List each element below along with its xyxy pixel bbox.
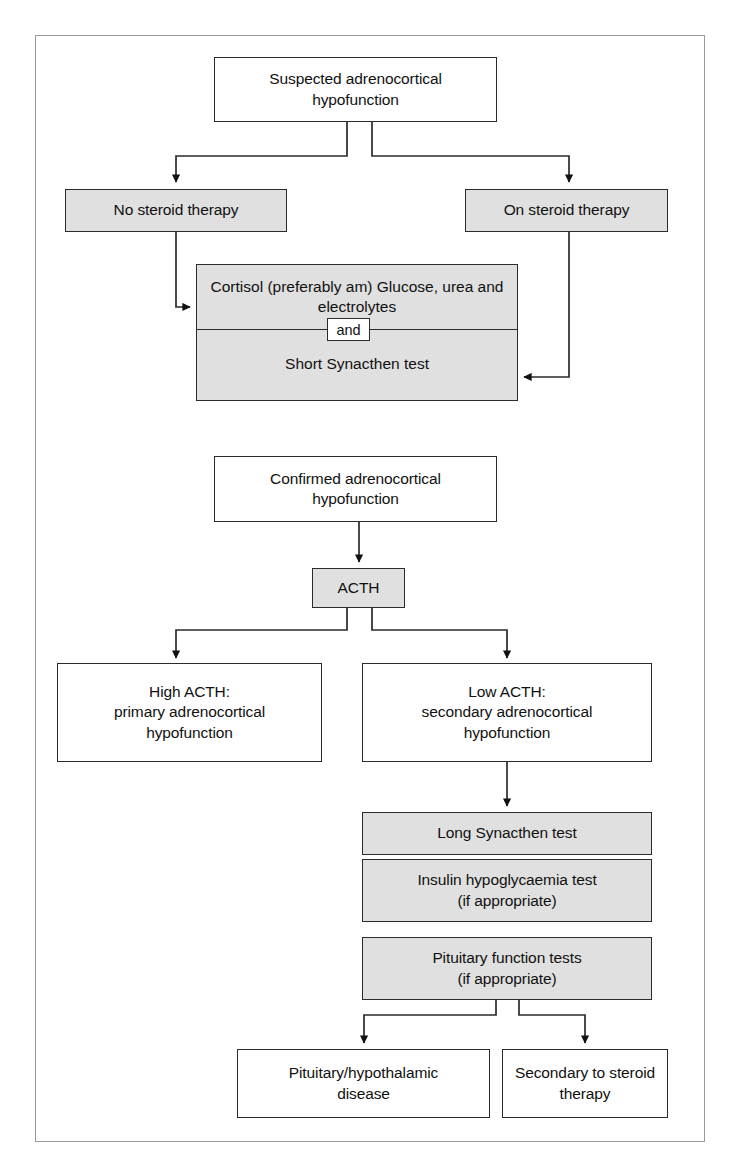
node-secondary-to-steroid-therapy[interactable]: Secondary to steroid therapy bbox=[502, 1049, 668, 1118]
node-label: Secondary to steroid therapy bbox=[515, 1063, 655, 1104]
node-label: Low ACTH: secondary adrenocortical hypof… bbox=[422, 682, 593, 743]
flowchart-figure: Suspected adrenocortical hypofunction No… bbox=[0, 0, 735, 1168]
connector-and-label: and bbox=[327, 318, 370, 341]
panel-segment-short-synacthen: Short Synacthen test bbox=[197, 331, 517, 398]
node-on-steroid-therapy[interactable]: On steroid therapy bbox=[465, 189, 668, 232]
node-high-acth-primary[interactable]: High ACTH: primary adrenocortical hypofu… bbox=[57, 663, 322, 762]
node-label: On steroid therapy bbox=[504, 200, 630, 220]
node-pituitary-hypothalamic-disease[interactable]: Pituitary/hypothalamic disease bbox=[237, 1049, 490, 1118]
and-text: and bbox=[336, 322, 360, 338]
node-long-synacthen-test[interactable]: Long Synacthen test bbox=[362, 812, 652, 855]
node-label: Confirmed adrenocortical hypofunction bbox=[270, 469, 441, 510]
node-label: No steroid therapy bbox=[114, 200, 239, 220]
node-confirmed-adrenocortical-hypofunction[interactable]: Confirmed adrenocortical hypofunction bbox=[214, 456, 497, 522]
node-label: Short Synacthen test bbox=[285, 354, 429, 374]
node-label: High ACTH: primary adrenocortical hypofu… bbox=[114, 682, 265, 743]
node-low-acth-secondary[interactable]: Low ACTH: secondary adrenocortical hypof… bbox=[362, 663, 652, 762]
node-label: Cortisol (preferably am) Glucose, urea a… bbox=[197, 277, 517, 318]
node-suspected-adrenocortical-hypofunction[interactable]: Suspected adrenocortical hypofunction bbox=[214, 57, 497, 122]
node-acth[interactable]: ACTH bbox=[312, 568, 405, 608]
node-no-steroid-therapy[interactable]: No steroid therapy bbox=[65, 189, 287, 232]
node-label: Pituitary/hypothalamic disease bbox=[289, 1063, 438, 1104]
node-label: Insulin hypoglycaemia test (if appropria… bbox=[417, 870, 596, 911]
node-insulin-hypoglycaemia-test[interactable]: Insulin hypoglycaemia test (if appropria… bbox=[362, 859, 652, 922]
node-label: ACTH bbox=[338, 578, 380, 598]
node-label: Suspected adrenocortical hypofunction bbox=[269, 69, 442, 110]
node-label: Pituitary function tests (if appropriate… bbox=[432, 948, 581, 989]
node-label: Long Synacthen test bbox=[437, 823, 576, 843]
node-pituitary-function-tests[interactable]: Pituitary function tests (if appropriate… bbox=[362, 937, 652, 1000]
